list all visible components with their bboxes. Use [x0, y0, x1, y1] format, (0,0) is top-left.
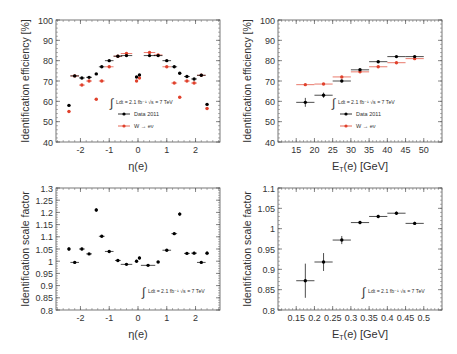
x-tick-label: 0.5 — [418, 313, 431, 323]
y-tick-label: 100 — [260, 16, 275, 26]
y-tick-label: 0.95 — [35, 269, 53, 279]
data-point — [148, 54, 151, 57]
data-point — [200, 261, 203, 264]
y-tick-label: 80 — [43, 56, 53, 66]
integral-icon: ∫ — [141, 285, 146, 299]
y-tick-label: 1 — [48, 257, 53, 267]
x-tick-label: 40 — [382, 145, 392, 155]
data-point — [173, 81, 176, 84]
y-tick-label: 0.85 — [257, 285, 275, 295]
x-tick-label: 0.25 — [324, 313, 342, 323]
data-point — [185, 75, 188, 78]
data-point — [358, 68, 361, 71]
x-tick-label: 50 — [419, 145, 429, 155]
y-tick-label: 0.85 — [35, 293, 53, 303]
x-tick-label: -2 — [76, 145, 84, 155]
y-tick-label: 60 — [265, 97, 275, 107]
x-axis-label: ET(e) [GeV] — [332, 160, 388, 173]
x-tick-label: 25 — [328, 145, 338, 155]
data-point — [200, 74, 203, 77]
x-tick-label: 2 — [193, 313, 198, 323]
data-point — [358, 221, 361, 224]
y-axis-label: Identification efficiency [%] — [19, 19, 31, 143]
legend-data-label: Data 2011 — [134, 111, 159, 117]
data-point — [108, 250, 111, 253]
x-tick-label: 0.35 — [360, 313, 378, 323]
x-tick-label: 20 — [309, 145, 319, 155]
data-point — [377, 65, 380, 68]
y-tick-label: 90 — [43, 36, 53, 46]
data-point — [67, 247, 70, 250]
data-point — [156, 54, 159, 57]
x-tick-label: 0 — [135, 145, 140, 155]
data-point — [135, 75, 138, 78]
data-point — [192, 81, 195, 84]
legend-mc-label: W → eν — [356, 123, 376, 129]
data-point — [395, 55, 398, 58]
x-tick-label: 15 — [291, 145, 301, 155]
data-point — [100, 65, 103, 68]
y-axis-label: Identification scale factor — [19, 191, 31, 307]
x-tick-label: 0.15 — [287, 313, 305, 323]
data-point — [322, 82, 325, 85]
data-point — [100, 235, 103, 238]
y-tick-label: 60 — [43, 97, 53, 107]
x-tick-label: 0.2 — [308, 313, 321, 323]
data-point — [80, 83, 83, 86]
efficiency-vs-eta-plot: -2-1012405060708090100η(e)Identification… — [0, 0, 228, 177]
scale-factor-vs-et-plot: 0.150.20.250.30.350.40.450.50.80.850.90.… — [228, 177, 457, 354]
data-point — [178, 96, 181, 99]
legend: ∫Ldt = 2.1 fb⁻¹ √s = 7 TeVData 2011W → e… — [331, 96, 395, 129]
y-tick-label: 1.2 — [40, 208, 53, 218]
data-point — [108, 65, 111, 68]
data-point — [395, 61, 398, 64]
data-point — [377, 60, 380, 63]
y-tick-label: 0.95 — [257, 245, 275, 255]
x-tick-label: 0.3 — [345, 313, 358, 323]
x-tick-label: -1 — [105, 313, 113, 323]
x-tick-label: 30 — [346, 145, 356, 155]
y-tick-label: 40 — [43, 138, 53, 148]
y-tick-label: 1.25 — [35, 196, 53, 206]
data-point — [87, 252, 90, 255]
y-tick-label: 0.8 — [40, 306, 53, 316]
y-tick-label: 0.9 — [262, 265, 275, 275]
data-point — [80, 247, 83, 250]
data-point — [95, 208, 98, 211]
data-point — [165, 59, 168, 62]
y-tick-label: 50 — [43, 117, 53, 127]
y-tick-label: 1.1 — [40, 232, 53, 242]
x-tick-label: 45 — [401, 145, 411, 155]
data-point — [205, 251, 208, 254]
data-point — [116, 259, 119, 262]
data-point — [73, 261, 76, 264]
efficiency-vs-et-plot: 1520253035404550405060708090100ET(e) [Ge… — [228, 0, 457, 177]
y-tick-label: 1.05 — [35, 245, 53, 255]
data-point — [322, 94, 325, 97]
x-tick-label: 35 — [364, 145, 374, 155]
integral-icon: ∫ — [361, 285, 366, 299]
legend: ∫Ldt = 2.1 fb⁻¹ √s = 7 TeVData 2011W → e… — [109, 96, 173, 129]
data-point — [95, 72, 98, 75]
data-point — [80, 76, 83, 79]
y-tick-label: 1.3 — [40, 184, 53, 194]
data-point — [138, 73, 141, 76]
y-tick-label: 1.15 — [35, 220, 53, 230]
data-point — [340, 79, 343, 82]
data-point — [340, 238, 343, 241]
data-point — [413, 55, 416, 58]
y-axis-label: Identification scale factor — [241, 191, 253, 307]
scale-factor-vs-eta-plot: -2-10120.80.850.90.9511.051.11.151.21.25… — [0, 177, 228, 354]
data-point — [146, 264, 149, 267]
integral-icon: ∫ — [109, 96, 114, 110]
x-tick-label: -1 — [105, 145, 113, 155]
data-point — [304, 279, 307, 282]
data-series — [67, 208, 209, 267]
data-point — [395, 212, 398, 215]
data-point — [148, 51, 151, 54]
x-tick-label: 2 — [193, 145, 198, 155]
legend: ∫Ldt = 2.1 fb⁻¹ √s = 7 TeV — [141, 285, 205, 299]
data-point — [125, 54, 128, 57]
y-tick-label: 0.8 — [262, 306, 275, 316]
y-tick-label: 1.05 — [257, 204, 275, 214]
